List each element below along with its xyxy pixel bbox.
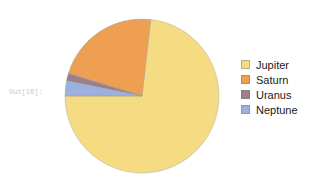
chart-legend: Jupiter Saturn Uranus Neptune bbox=[241, 57, 319, 121]
pie-chart-figure: Jupiter Saturn Uranus Neptune bbox=[55, 0, 320, 181]
legend-label-uranus: Uranus bbox=[256, 89, 291, 101]
pie-chart-plot-area bbox=[55, 0, 230, 181]
legend-item-uranus[interactable]: Uranus bbox=[241, 87, 319, 102]
legend-swatch-jupiter bbox=[241, 60, 250, 69]
notebook-output-cell: Out[16]: Jupiter Saturn Uranus Nept bbox=[0, 0, 320, 181]
legend-item-neptune[interactable]: Neptune bbox=[241, 102, 319, 117]
pie-slice-group bbox=[65, 19, 219, 173]
legend-item-saturn[interactable]: Saturn bbox=[241, 72, 319, 87]
legend-label-jupiter: Jupiter bbox=[256, 59, 289, 71]
legend-swatch-neptune bbox=[241, 105, 250, 114]
legend-label-neptune: Neptune bbox=[256, 104, 298, 116]
pie-chart-svg bbox=[55, 0, 230, 181]
legend-swatch-saturn bbox=[241, 75, 250, 84]
legend-item-jupiter[interactable]: Jupiter bbox=[241, 57, 319, 72]
legend-label-saturn: Saturn bbox=[256, 74, 288, 86]
legend-swatch-uranus bbox=[241, 90, 250, 99]
output-prompt-label: Out[16]: bbox=[9, 88, 53, 97]
